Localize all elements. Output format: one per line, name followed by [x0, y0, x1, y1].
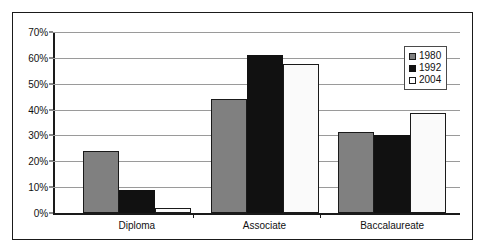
bar-baccalaureate-1980: [338, 132, 374, 213]
y-tick-label: 30%: [28, 130, 48, 141]
gray-square-swatch: [409, 53, 416, 60]
black-square-swatch: [409, 65, 416, 72]
gridline-0%: [53, 213, 460, 215]
gridline-70%: [53, 32, 460, 33]
legend-item-1992: 1992: [409, 62, 441, 74]
y-tick-label: 50%: [28, 78, 48, 89]
legend-item-1980: 1980: [409, 50, 441, 62]
bar-associate-2004: [283, 64, 319, 213]
y-tick-label: 40%: [28, 104, 48, 115]
legend-label-1980: 1980: [419, 50, 441, 62]
white-square-swatch: [409, 77, 416, 84]
bar-baccalaureate-2004: [410, 113, 446, 213]
y-tick-mark-0%: [49, 213, 53, 214]
y-axis-line: [53, 32, 55, 213]
y-tick-mark-60%: [49, 57, 53, 58]
legend-label-2004: 2004: [419, 74, 441, 86]
y-tick-label: 20%: [28, 156, 48, 167]
y-tick-mark-20%: [49, 161, 53, 162]
y-tick-mark-10%: [49, 187, 53, 188]
x-axis-group-separator: [320, 213, 321, 218]
bar-associate-1992: [247, 55, 283, 213]
y-tick-label: 0%: [34, 208, 48, 219]
bar-associate-1980: [211, 99, 247, 213]
y-tick-label: 60%: [28, 52, 48, 63]
category-label-associate: Associate: [243, 220, 286, 231]
y-tick-mark-40%: [49, 109, 53, 110]
bar-diploma-1992: [119, 190, 155, 213]
bar-diploma-2004: [155, 208, 191, 213]
chart-figure-frame: 0%10%20%30%40%50%60%70% DiplomaAssociate…: [12, 12, 473, 240]
x-axis-group-separator: [193, 213, 194, 218]
category-label-diploma: Diploma: [118, 220, 155, 231]
chart-legend: 1980 1992 2004: [404, 46, 447, 90]
plot-area: 0%10%20%30%40%50%60%70% DiplomaAssociate…: [53, 32, 460, 213]
bar-baccalaureate-1992: [374, 135, 410, 213]
y-tick-label: 10%: [28, 182, 48, 193]
legend-label-1992: 1992: [419, 62, 441, 74]
legend-item-2004: 2004: [409, 74, 441, 86]
bar-diploma-1980: [83, 151, 119, 213]
y-tick-mark-70%: [49, 32, 53, 33]
y-tick-mark-50%: [49, 83, 53, 84]
y-tick-mark-30%: [49, 135, 53, 136]
category-label-baccalaureate: Baccalaureate: [360, 220, 424, 231]
y-tick-label: 70%: [28, 27, 48, 38]
